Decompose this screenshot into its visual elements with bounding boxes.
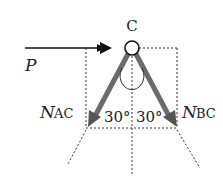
angle-left-label: 30° bbox=[104, 108, 131, 126]
left-diverging-dashed bbox=[68, 130, 86, 164]
force-diagram: C P N AC N BC 30° 30° bbox=[0, 0, 223, 181]
angle-right-label: 30° bbox=[136, 108, 163, 126]
angle-arc bbox=[120, 68, 144, 90]
node-circle bbox=[125, 41, 139, 55]
construction-lines bbox=[68, 48, 200, 175]
arrowhead-icon bbox=[100, 42, 112, 54]
right-diverging-dashed bbox=[177, 130, 200, 168]
node-label: C bbox=[126, 17, 137, 35]
force-nbc-label-sub: BC bbox=[196, 106, 216, 121]
force-p-label: P bbox=[24, 55, 37, 75]
force-nac-label-sub: AC bbox=[53, 106, 73, 121]
